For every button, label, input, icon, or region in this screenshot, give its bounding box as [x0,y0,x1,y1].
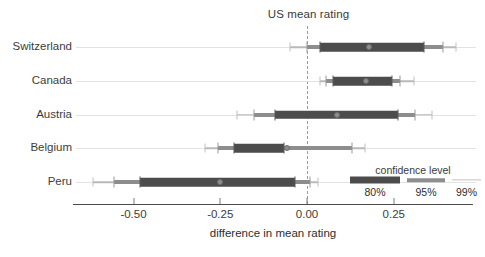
legend-keys: 80%95%99% [345,180,481,202]
x-tick-label-3: 0.25 [383,208,405,220]
legend-key-80-icon [350,177,400,184]
point-estimate-canada [363,78,369,84]
legend-label-80: 80% [364,186,385,198]
point-estimate-switzerland [366,44,372,50]
ci95-cap-lower-switzerland [307,42,308,53]
ci80-cap-upper-switzerland [423,42,424,53]
ci99-cap-lower-belgium [205,144,206,153]
ci99-cap-lower-peru [92,178,93,187]
ci99-cap-upper-belgium [364,144,365,153]
ci95-cap-upper-austria [414,109,415,120]
ci80-cap-lower-belgium [234,143,235,154]
ci99-cap-lower-austria [237,110,238,119]
legend-label-99: 99% [456,186,477,198]
interval-row-canada [0,72,485,90]
ci95-cap-upper-peru [310,177,311,188]
ci95-cap-upper-belgium [351,143,352,154]
ci80-cap-upper-peru [295,177,296,188]
x-axis-title: difference in mean rating [73,227,473,239]
ci95-cap-lower-peru [113,177,114,188]
x-tick-label-2: 0.00 [296,208,318,220]
ci95-cap-lower-austria [254,109,255,120]
ci95-cap-upper-canada [399,76,400,87]
ci99-cap-lower-switzerland [289,43,290,52]
confidence-interval-chart: US mean rating SwitzerlandCanadaAustriaB… [0,0,485,257]
ci80-cap-lower-canada [333,76,334,87]
interval-row-switzerland [0,38,485,56]
legend-label-95: 95% [415,186,436,198]
chart-title: US mean rating [0,8,485,20]
ci80-cap-lower-peru [140,177,141,188]
legend: confidence level 80%95%99% [345,164,481,202]
ci95-cap-upper-switzerland [442,42,443,53]
ci99-cap-lower-canada [319,77,320,86]
ci80-cap-upper-canada [392,76,393,87]
ci99-cap-upper-peru [318,178,319,187]
x-tick-2 [307,198,308,204]
chart-title-text: US mean rating [268,8,349,20]
x-axis-line [73,204,473,205]
ci80-cap-upper-austria [397,109,398,120]
ci99-cap-upper-canada [413,77,414,86]
ci80-cap-lower-switzerland [319,42,320,53]
point-estimate-austria [334,112,340,118]
x-tick-label-0: -0.50 [120,208,146,220]
ci95-cap-lower-canada [326,76,327,87]
legend-key-99-icon [452,179,481,180]
ci99-cap-upper-austria [431,110,432,119]
interval-row-austria [0,106,485,124]
ci80-cap-lower-austria [275,109,276,120]
legend-title: confidence level [345,164,481,176]
interval-row-belgium [0,139,485,157]
legend-key-95-icon [407,178,445,182]
x-tick-1 [220,198,221,204]
ci95-cap-lower-belgium [218,143,219,154]
point-estimate-peru [217,179,223,185]
x-tick-label-1: -0.25 [207,208,233,220]
x-tick-0 [133,198,134,204]
point-estimate-belgium [284,145,290,151]
ci80-bar-belgium [234,144,284,153]
ci99-cap-upper-switzerland [455,43,456,52]
